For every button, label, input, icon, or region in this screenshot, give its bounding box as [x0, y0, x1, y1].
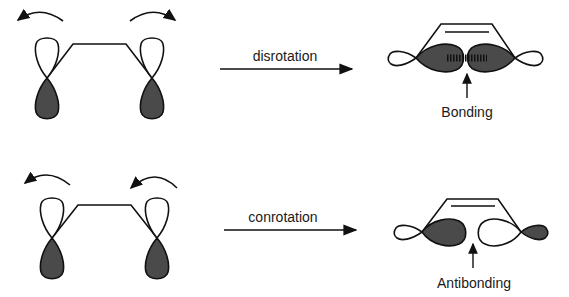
- result-label: Bonding: [441, 104, 492, 120]
- p-orbital-top-lobe-open: [145, 198, 168, 238]
- orbital-diagram: disrotation Bonding conrotation: [0, 0, 569, 297]
- p-orbital-top-lobe-open: [40, 198, 63, 238]
- reactant-disrotation: [18, 12, 175, 119]
- butadiene-backbone: [47, 44, 152, 78]
- reaction-arrow-disrotation: disrotation: [220, 48, 352, 69]
- rotate-ccw-arrow-icon: [131, 177, 177, 188]
- butadiene-backbone: [52, 205, 157, 238]
- outer-lobe-open: [394, 225, 422, 239]
- mode-label: disrotation: [253, 48, 318, 64]
- p-orbital-bottom-lobe-shaded: [35, 78, 58, 119]
- mode-label: conrotation: [248, 209, 317, 225]
- outer-lobe-shaded: [521, 225, 548, 239]
- p-orbital-bottom-lobe-shaded: [145, 238, 168, 279]
- product-disrotation: Bonding: [388, 24, 543, 120]
- result-label: Antibonding: [437, 275, 511, 291]
- rotate-ccw-arrow-icon: [25, 175, 70, 185]
- product-conrotation: Antibonding: [394, 199, 548, 291]
- reactant-conrotation: [25, 175, 177, 279]
- p-orbital-top-lobe-open: [140, 38, 163, 78]
- p-orbital-top-lobe-open: [35, 38, 58, 78]
- reaction-arrow-conrotation: conrotation: [224, 209, 356, 230]
- rotate-cw-arrow-icon: [130, 12, 175, 21]
- rotate-ccw-arrow-icon: [18, 12, 63, 21]
- outer-lobe-open: [515, 51, 543, 65]
- p-orbital-bottom-lobe-shaded: [40, 238, 63, 279]
- outer-lobe-open: [388, 51, 416, 65]
- p-orbital-bottom-lobe-shaded: [140, 78, 163, 119]
